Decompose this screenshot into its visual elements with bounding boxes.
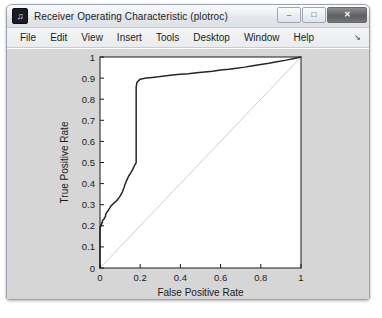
title-bar[interactable]: ♫ Receiver Operating Characteristic (plo… [7,5,369,28]
x-tick-label: 0 [97,272,102,283]
y-tick-label: 0.4 [82,178,95,189]
maximize-button[interactable]: □ [302,7,326,23]
menu-item-file[interactable]: File [13,32,43,43]
menu-item-edit[interactable]: Edit [43,32,74,43]
y-axis-label: True Positive Rate [59,121,70,203]
y-tick-label: 1 [90,52,95,63]
menu-bar: File Edit View Insert Tools Desktop Wind… [7,28,369,48]
y-tick-label: 0.5 [82,157,95,168]
figure-window: ♫ Receiver Operating Characteristic (plo… [6,4,370,300]
menu-item-tools[interactable]: Tools [149,32,186,43]
menu-item-insert[interactable]: Insert [110,32,149,43]
x-tick-label: 0.4 [174,272,187,283]
menu-item-view[interactable]: View [74,32,110,43]
y-tick-label: 0.1 [82,241,95,252]
x-tick-label: 0.8 [254,272,267,283]
y-tick-label: 0.7 [82,115,95,126]
y-tick-label: 0.3 [82,199,95,210]
roc-plot: 00.20.40.60.8100.10.20.30.40.50.60.70.80… [7,49,369,300]
y-tick-label: 0.2 [82,220,95,231]
menu-overflow-arrow-icon[interactable]: ↘ [354,33,361,42]
y-tick-label: 0.9 [82,73,95,84]
menu-item-desktop[interactable]: Desktop [186,32,237,43]
window-title: Receiver Operating Characteristic (plotr… [34,11,228,22]
x-tick-label: 0.6 [214,272,227,283]
menu-item-help[interactable]: Help [287,32,322,43]
x-tick-label: 1 [298,272,303,283]
menu-item-window[interactable]: Window [237,32,287,43]
minimize-button[interactable]: – [277,7,301,23]
x-axis-label: False Positive Rate [157,287,244,298]
x-tick-label: 0.2 [134,272,147,283]
matlab-figure-icon: ♫ [12,8,28,24]
figure-canvas: 00.20.40.60.8100.10.20.30.40.50.60.70.80… [7,48,369,300]
y-tick-label: 0 [90,263,95,274]
y-tick-label: 0.6 [82,136,95,147]
close-button[interactable]: ✕ [327,7,367,23]
window-controls: – □ ✕ [277,7,367,23]
y-tick-label: 0.8 [82,94,95,105]
